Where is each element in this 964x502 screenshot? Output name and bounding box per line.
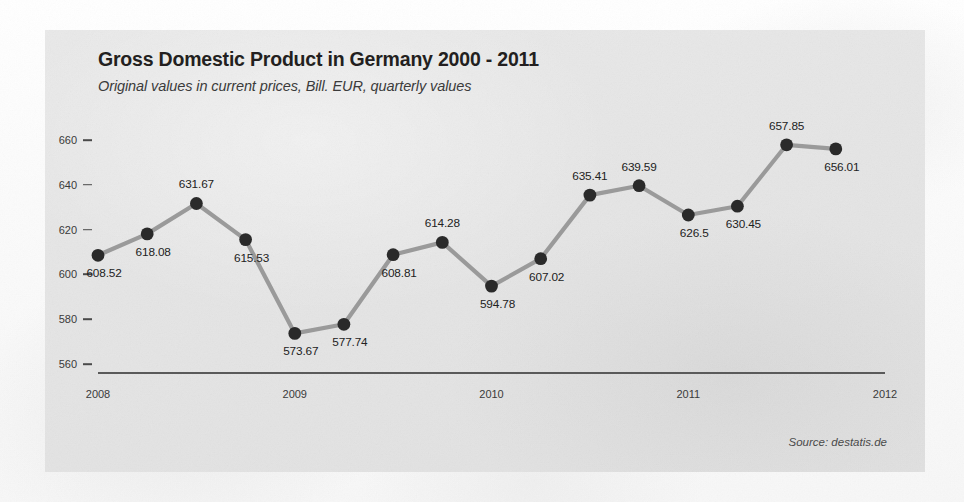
data-point-value-label: 630.45 (726, 217, 761, 231)
x-axis-tick-label: 2012 (873, 388, 897, 400)
data-point-value-label: 614.28 (425, 216, 460, 230)
y-axis-tick-label: 640 (45, 179, 77, 191)
x-axis-tick-label: 2010 (479, 388, 503, 400)
data-point-value-label: 594.78 (480, 297, 515, 311)
data-point-value-label: 618.08 (136, 245, 171, 259)
data-point-marker[interactable] (682, 209, 695, 222)
data-point-value-label: 635.41 (572, 169, 607, 183)
data-point-marker[interactable] (584, 189, 597, 202)
data-point-marker[interactable] (731, 200, 744, 213)
data-point-marker[interactable] (288, 327, 301, 340)
data-point-marker[interactable] (534, 252, 547, 265)
y-axis-tick-label: 600 (45, 268, 77, 280)
data-point-marker[interactable] (141, 228, 154, 241)
y-axis-tick-label: 660 (45, 134, 77, 146)
data-point-value-label: 639.59 (621, 160, 656, 174)
data-point-value-label: 607.02 (529, 270, 564, 284)
data-point-marker[interactable] (633, 179, 646, 192)
data-point-marker[interactable] (239, 233, 252, 246)
x-axis-tick-label: 2009 (283, 388, 307, 400)
data-point-marker[interactable] (190, 197, 203, 210)
y-axis-tick-mark (83, 229, 92, 231)
y-axis-tick-label: 580 (45, 313, 77, 325)
y-axis-tick-mark (83, 184, 92, 186)
data-point-value-label: 626.5 (680, 226, 709, 240)
y-axis-tick-label: 560 (45, 358, 77, 370)
chart-plot-area: 5605806006206406602008200920102011201260… (45, 30, 925, 472)
data-point-value-label: 631.67 (179, 177, 214, 191)
data-point-marker[interactable] (338, 318, 351, 331)
data-point-value-label: 577.74 (332, 335, 367, 349)
data-point-value-label: 615.53 (234, 251, 269, 265)
source-attribution: Source: destatis.de (789, 436, 887, 448)
y-axis-tick-mark (83, 363, 92, 365)
gdp-line-series (45, 30, 925, 472)
data-point-value-label: 608.52 (86, 266, 121, 280)
y-axis-tick-mark (83, 139, 92, 141)
y-axis-tick-mark (83, 318, 92, 320)
gdp-line-path (98, 145, 836, 334)
data-point-marker[interactable] (92, 249, 105, 262)
x-axis-tick-label: 2011 (676, 388, 700, 400)
data-point-marker[interactable] (780, 138, 793, 151)
data-point-marker[interactable] (387, 248, 400, 261)
data-point-marker[interactable] (485, 280, 498, 293)
x-axis-tick-label: 2008 (86, 388, 110, 400)
x-axis-line (98, 372, 885, 374)
data-point-value-label: 657.85 (769, 119, 804, 133)
y-axis-tick-label: 620 (45, 224, 77, 236)
data-point-marker[interactable] (829, 143, 842, 156)
chart-card: Gross Domestic Product in Germany 2000 -… (45, 30, 925, 472)
data-point-value-label: 573.67 (283, 344, 318, 358)
data-point-value-label: 608.81 (382, 266, 417, 280)
data-point-marker[interactable] (436, 236, 449, 249)
data-point-value-label: 656.01 (824, 160, 859, 174)
